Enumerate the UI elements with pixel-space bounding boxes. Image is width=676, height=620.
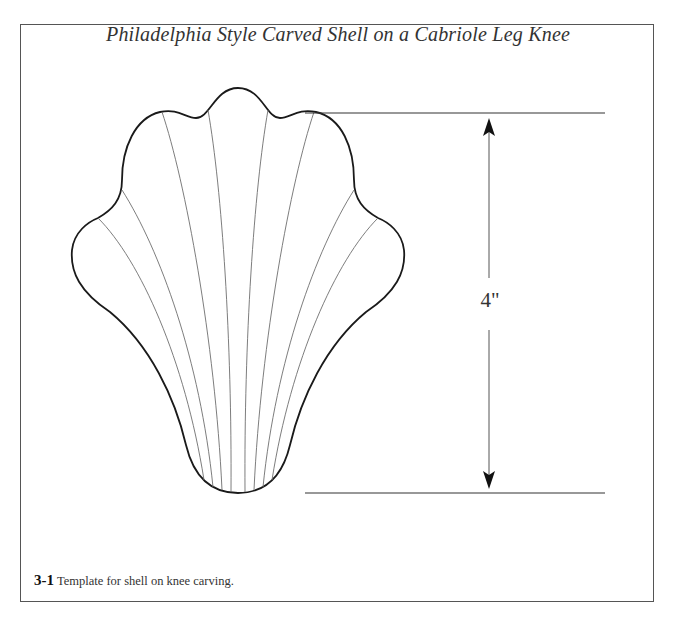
flute-line xyxy=(162,112,222,490)
flute-line xyxy=(208,110,231,492)
figure-caption: 3-1Template for shell on knee carving. xyxy=(34,572,234,589)
shell-drawing xyxy=(0,0,676,620)
shell-outline xyxy=(72,88,404,493)
caption-number: 3-1 xyxy=(34,572,54,588)
caption-text: Template for shell on knee carving. xyxy=(57,574,234,588)
flute-lines xyxy=(98,110,378,492)
flute-line xyxy=(272,218,378,480)
flute-line xyxy=(245,110,268,492)
flute-line xyxy=(254,112,314,490)
flute-line xyxy=(98,218,204,480)
dimension-label: 4" xyxy=(470,288,510,313)
